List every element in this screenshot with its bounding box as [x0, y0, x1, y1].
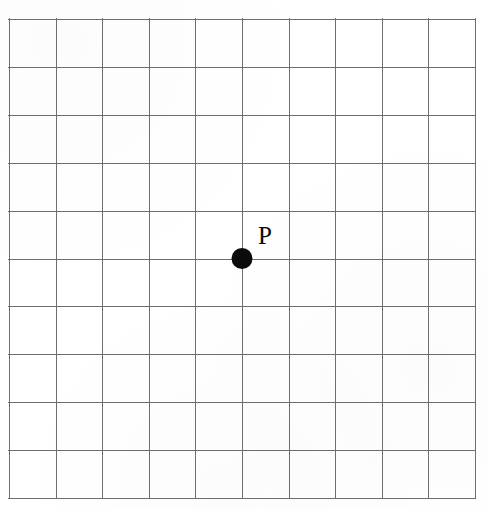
worksheet-background: P: [0, 0, 487, 509]
grid-svg: P: [9, 19, 475, 498]
plotted-points-layer: P: [232, 222, 272, 270]
point-marker-p: [232, 248, 253, 269]
coordinate-grid-figure: P: [9, 19, 475, 498]
point-label-p: P: [258, 222, 272, 249]
